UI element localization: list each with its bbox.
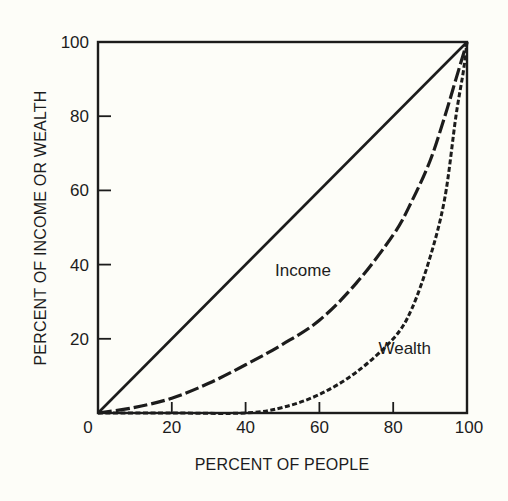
y-tick-label: 60 (70, 181, 89, 200)
wealth-series-label: Wealth (378, 339, 431, 358)
x-tick-label: 40 (236, 418, 255, 437)
x-tick-label: 100 (455, 418, 483, 437)
x-tick-label: 20 (162, 418, 181, 437)
x-tick-label: 80 (384, 418, 403, 437)
y-tick-label: 40 (70, 256, 89, 275)
x-tick-label: 60 (310, 418, 329, 437)
gini-lorenz-chart: 020406080100 20406080100 Income Wealth P… (0, 0, 508, 501)
y-axis-title: PERCENT OF INCOME OR WEALTH (32, 90, 49, 365)
y-tick-label: 20 (70, 330, 89, 349)
income-series-label: Income (275, 261, 331, 280)
x-tick-label: 0 (83, 418, 92, 437)
y-tick-label: 80 (70, 107, 89, 126)
y-tick-label: 100 (61, 33, 89, 52)
y-axis-ticks: 20406080100 (61, 33, 111, 349)
x-axis-title: PERCENT OF PEOPLE (195, 456, 370, 473)
series-layer (98, 42, 467, 413)
